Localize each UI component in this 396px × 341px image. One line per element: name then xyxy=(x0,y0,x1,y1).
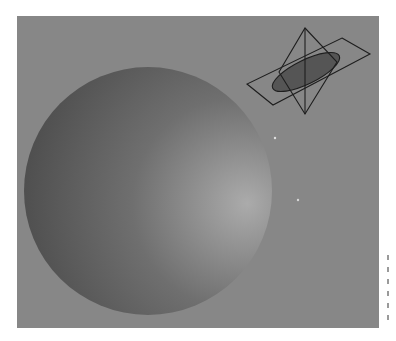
clipped-margin-text xyxy=(385,255,391,325)
scene-canvas xyxy=(0,0,396,341)
margin-mark xyxy=(387,255,389,260)
speck-dot xyxy=(297,199,299,201)
margin-mark xyxy=(387,315,389,320)
margin-mark xyxy=(387,303,389,308)
margin-mark xyxy=(387,279,389,284)
speck-dot xyxy=(274,137,276,139)
margin-mark xyxy=(387,267,389,272)
shaded-sphere xyxy=(24,67,272,315)
margin-mark xyxy=(387,291,389,296)
plane-cross-section-icon xyxy=(247,28,370,114)
